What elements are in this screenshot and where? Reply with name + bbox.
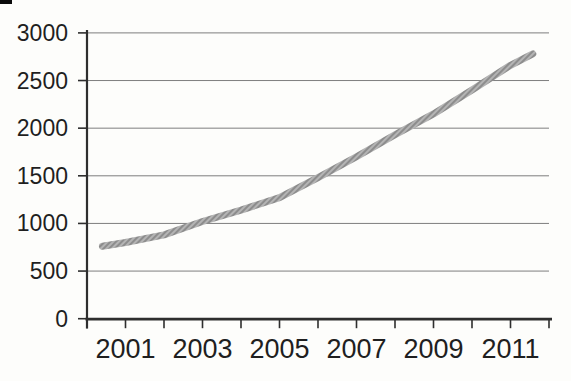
y-axis-label-2500: 2500 xyxy=(17,68,68,94)
chart-figure: 0500100015002000250030002001200320052007… xyxy=(0,0,571,381)
x-axis-label-2009: 2009 xyxy=(403,334,463,364)
y-axis-label-1500: 1500 xyxy=(17,163,68,189)
series-layer xyxy=(102,54,532,246)
y-axis-label-0: 0 xyxy=(55,306,68,332)
y-axis-label-1000: 1000 xyxy=(17,210,68,236)
x-axis-label-2011: 2011 xyxy=(481,334,539,364)
axis-labels-layer: 0500100015002000250030002001200320052007… xyxy=(17,20,540,364)
y-axis-label-2000: 2000 xyxy=(17,115,68,141)
scan-artifact xyxy=(0,0,12,4)
y-axis-label-3000: 3000 xyxy=(17,20,68,46)
data-series-line xyxy=(102,54,532,246)
line-chart: 0500100015002000250030002001200320052007… xyxy=(0,0,571,381)
x-axis-label-2003: 2003 xyxy=(172,334,232,364)
x-axis-label-2005: 2005 xyxy=(249,334,309,364)
x-axis-label-2007: 2007 xyxy=(326,334,386,364)
y-axis-label-500: 500 xyxy=(30,258,68,284)
x-axis-label-2001: 2001 xyxy=(95,334,155,364)
